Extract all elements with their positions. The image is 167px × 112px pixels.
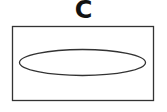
inner-ellipse	[20, 50, 146, 76]
outer-rectangle	[13, 27, 154, 101]
diagram-canvas	[0, 0, 167, 112]
